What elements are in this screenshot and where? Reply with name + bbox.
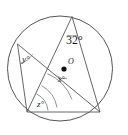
angle-label-y: y°: [22, 55, 30, 64]
angle-label-z: z°: [37, 100, 44, 109]
main-circle: [8, 16, 113, 121]
center-point-dot: [61, 66, 66, 71]
angle-label-32: 32°: [66, 34, 83, 46]
chord-top-to-bottom-right: [72, 17, 100, 113]
geometry-figure: 32° O x° y° z°: [0, 0, 128, 135]
chord-top-to-bottom-left: [27, 17, 72, 113]
angle-label-x: x°: [58, 76, 65, 84]
circle-geometry-drawing: [0, 0, 128, 135]
center-label-o: O: [68, 58, 74, 66]
